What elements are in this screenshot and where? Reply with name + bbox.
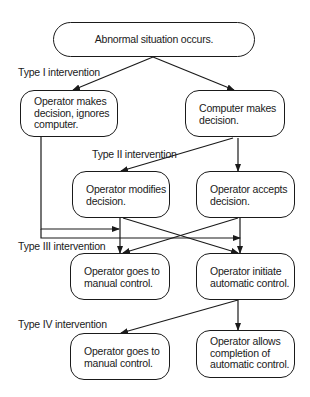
node-text: Abnormal situation occurs. (95, 34, 214, 46)
label-type-3-intervention: Type III intervention (18, 240, 105, 252)
node-text: decision. (210, 196, 286, 208)
node-text: automatic control. (210, 359, 286, 371)
arrow-start-to-comp-decides (153, 57, 234, 90)
node-operator-manual-control-4: Operator goes to manual control. (70, 333, 170, 380)
node-text: Operator modifies (86, 184, 161, 196)
node-abnormal-situation: Abnormal situation occurs. (53, 22, 255, 57)
node-text: Operator goes to (84, 346, 161, 358)
node-text: Operator accepts (210, 184, 286, 196)
node-text: Operator initiate (210, 266, 286, 278)
node-operator-initiate-automatic: Operator initiate automatic control. (196, 253, 295, 300)
node-operator-ignores-computer: Operator makes decision, ignores compute… (20, 90, 118, 137)
node-text: computer. (34, 119, 109, 131)
node-text: manual control. (84, 358, 161, 370)
node-text: manual control. (84, 278, 161, 290)
arrow-op-ignores-to-auto (41, 229, 240, 238)
label-type-4-intervention: Type IV intervention (18, 318, 107, 330)
node-text: Computer makes (199, 103, 276, 115)
arrow-auto-to-manual-4 (121, 300, 238, 333)
node-text: automatic control. (210, 278, 286, 290)
node-operator-manual-control-3: Operator goes to manual control. (70, 253, 170, 300)
flowchart: Abnormal situation occurs. Type I interv… (0, 0, 310, 397)
node-text: Operator allows (210, 336, 286, 348)
label-type-2-intervention: Type II intervention (92, 148, 177, 160)
label-type-1-intervention: Type I intervention (18, 66, 100, 78)
node-text: decision. (86, 196, 161, 208)
node-operator-allows-completion: Operator allows completion of automatic … (196, 330, 295, 378)
node-text: Operator makes (34, 96, 109, 108)
node-text: decision. (199, 115, 276, 127)
node-operator-accepts-decision: Operator accepts decision. (196, 171, 295, 218)
node-computer-makes-decision: Computer makes decision. (185, 90, 285, 137)
node-operator-modifies-decision: Operator modifies decision. (72, 171, 170, 218)
node-text: Operator goes to (84, 266, 161, 278)
